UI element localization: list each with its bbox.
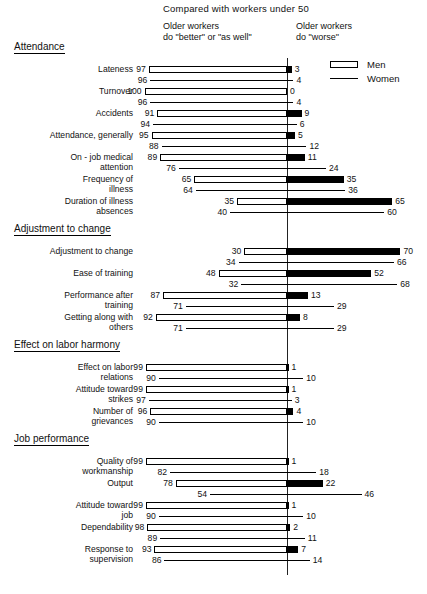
value-men-worse: 65 — [395, 197, 405, 206]
value-women-better: 89 — [118, 534, 157, 543]
value-men-worse: 1 — [292, 363, 297, 372]
value-women-worse: 4 — [296, 76, 301, 85]
bar-women — [149, 397, 292, 404]
bar-women — [159, 375, 303, 382]
group-title: Adjustment to change — [14, 223, 111, 236]
bar-women-line — [230, 212, 384, 213]
bar-women — [159, 513, 303, 520]
value-women-worse: 68 — [400, 280, 410, 289]
value-men-better: 99 — [104, 501, 143, 510]
bar-men — [194, 176, 343, 183]
bar-women-line — [159, 378, 303, 379]
value-women-better: 86 — [122, 556, 161, 565]
bar-men — [145, 88, 288, 95]
value-women-worse: 36 — [348, 186, 358, 195]
bar-men-better-segment — [219, 270, 287, 277]
value-men-better: 91 — [115, 109, 154, 118]
bar-women — [150, 99, 293, 106]
bar-women-line — [210, 494, 361, 495]
value-men-better: 100 — [103, 87, 142, 96]
bar-women-line — [179, 168, 326, 169]
bar-men-better-segment — [146, 364, 287, 371]
bar-men — [146, 364, 289, 371]
value-men-better: 99 — [104, 363, 143, 372]
value-women-worse: 46 — [365, 490, 375, 499]
bar-women — [153, 121, 297, 128]
bar-men-better-segment — [244, 248, 287, 255]
value-men-worse: 1 — [292, 457, 297, 466]
bar-men-better-segment — [146, 386, 287, 393]
value-men-worse: 1 — [292, 501, 297, 510]
value-men-worse: 70 — [403, 247, 413, 256]
bar-men-worse-segment — [287, 458, 289, 465]
bar-women — [179, 165, 326, 172]
bar-women — [210, 491, 361, 498]
value-men-worse: 22 — [326, 479, 336, 488]
bar-women-line — [160, 538, 305, 539]
value-women-better: 76 — [137, 164, 176, 173]
bar-men — [146, 386, 289, 393]
bar-men — [156, 314, 300, 321]
value-men-better: 97 — [107, 65, 146, 74]
bar-men-better-segment — [176, 480, 287, 487]
value-women-better: 90 — [117, 374, 156, 383]
bar-men — [244, 248, 400, 255]
value-women-worse: 24 — [329, 164, 339, 173]
value-women-worse: 4 — [296, 98, 301, 107]
row-label: Output — [0, 479, 133, 489]
value-men-worse: 8 — [303, 313, 308, 322]
value-women-worse: 14 — [313, 556, 323, 565]
bar-men-better-segment — [156, 314, 287, 321]
bar-men-worse-segment — [287, 502, 289, 509]
value-women-worse: 11 — [308, 534, 317, 543]
value-women-worse: 29 — [337, 302, 347, 311]
value-women-better: 90 — [117, 418, 156, 427]
bar-women — [230, 209, 384, 216]
bar-men-better-segment — [146, 458, 287, 465]
value-men-worse: 9 — [305, 109, 310, 118]
bar-women-line — [153, 124, 297, 125]
bar-women — [162, 143, 307, 150]
row-label: Ease of training — [0, 269, 133, 279]
bar-men-worse-segment — [287, 198, 392, 205]
bar-men-worse-segment — [287, 546, 298, 553]
value-men-worse: 2 — [293, 523, 298, 532]
bar-women-line — [149, 400, 292, 401]
bar-women — [170, 469, 316, 476]
value-men-better: 95 — [110, 131, 149, 140]
value-men-worse: 0 — [290, 87, 295, 96]
bar-men-worse-segment — [287, 154, 305, 161]
row-label: Duration of illness absences — [0, 197, 133, 216]
value-men-better: 30 — [202, 247, 241, 256]
row-label: Frequency of illness — [0, 175, 133, 194]
bar-women-line — [170, 472, 316, 473]
value-women-better: 32 — [199, 280, 238, 289]
bar-men-better-segment — [157, 110, 287, 117]
bar-women — [160, 535, 305, 542]
bar-women-line — [186, 328, 334, 329]
bar-men-worse-segment — [287, 364, 289, 371]
bar-men-better-segment — [150, 408, 287, 415]
bar-men — [237, 198, 392, 205]
bar-women-line — [239, 262, 394, 263]
value-women-worse: 66 — [397, 258, 407, 267]
bar-men — [160, 154, 305, 161]
row-label: Accidents — [0, 109, 133, 119]
value-women-better: 40 — [188, 208, 227, 217]
bar-women — [164, 557, 309, 564]
bar-men-worse-segment — [287, 408, 293, 415]
bar-men-better-segment — [160, 154, 287, 161]
bar-men-worse-segment — [287, 386, 289, 393]
value-women-better: 54 — [168, 490, 207, 499]
value-men-worse: 13 — [311, 291, 321, 300]
value-men-worse: 35 — [347, 175, 357, 184]
bar-men-better-segment — [149, 66, 287, 73]
value-men-better: 99 — [104, 385, 143, 394]
bar-women-line — [159, 422, 303, 423]
bar-women-line — [164, 560, 309, 561]
bar-women-line — [196, 190, 346, 191]
bar-women-line — [162, 146, 307, 147]
row-label: On - job medical attention — [0, 153, 133, 172]
bar-men-worse-segment — [287, 314, 300, 321]
bar-men-better-segment — [237, 198, 287, 205]
